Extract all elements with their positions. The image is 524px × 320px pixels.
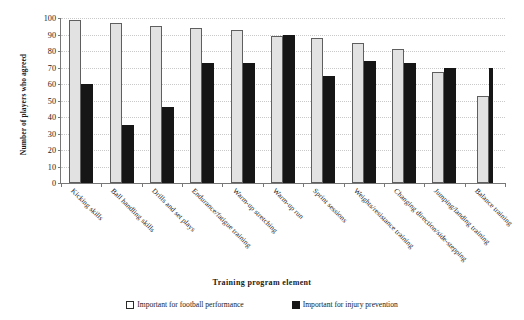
x-axis-labels: Kicking skillsBall handling skillsDrills… <box>60 187 504 272</box>
y-tick-label: 30 <box>48 129 61 138</box>
bar-performance[interactable] <box>190 28 202 183</box>
bar-groups <box>61 18 505 183</box>
bar-group <box>182 18 222 183</box>
bar-injury-prevention[interactable] <box>444 68 456 184</box>
bar-injury-prevention[interactable] <box>122 125 134 183</box>
bar-performance[interactable] <box>231 30 243 183</box>
bar-group <box>101 18 141 183</box>
bar-group <box>465 18 505 183</box>
bar-injury-prevention[interactable] <box>323 76 335 183</box>
bar-injury-prevention[interactable] <box>283 35 295 184</box>
x-tick-label: Changing direction/side-stepping <box>392 186 469 263</box>
x-axis-title: Training program element <box>0 278 524 287</box>
bar-injury-prevention[interactable] <box>162 107 174 183</box>
bar-group <box>142 18 182 183</box>
y-tick-label: 80 <box>48 47 61 56</box>
bar-performance[interactable] <box>271 36 283 183</box>
y-tick-label: 50 <box>48 96 61 105</box>
bar-injury-prevention[interactable] <box>404 63 416 183</box>
filled-square-icon <box>292 301 300 309</box>
y-tick-label: 10 <box>48 162 61 171</box>
bar-group <box>424 18 464 183</box>
y-tick-label: 40 <box>48 113 61 122</box>
bar-group <box>344 18 384 183</box>
bar-group <box>263 18 303 183</box>
legend-item[interactable]: Important for football performance <box>126 300 243 309</box>
x-tick-label: Warm-up run <box>271 186 306 221</box>
y-axis-title: Number of players who agreed <box>19 20 28 190</box>
y-tick-label: 70 <box>48 63 61 72</box>
x-tick-label: Sprint sessions <box>311 186 349 224</box>
bar-injury-prevention[interactable] <box>489 68 493 184</box>
bar-group <box>384 18 424 183</box>
bar-group <box>303 18 343 183</box>
bar-performance[interactable] <box>110 23 122 183</box>
legend-item[interactable]: Important for injury prevention <box>292 300 398 309</box>
y-tick-label: 60 <box>48 80 61 89</box>
y-tick-label: 90 <box>48 30 61 39</box>
bar-injury-prevention[interactable] <box>364 61 376 183</box>
x-tick-label: Kicking skills <box>69 186 105 222</box>
bar-chart-figure: Number of players who agreed 10090807060… <box>0 0 524 320</box>
bar-performance[interactable] <box>477 96 489 183</box>
bar-performance[interactable] <box>150 26 162 183</box>
bar-performance[interactable] <box>432 72 444 183</box>
legend-label: Important for injury prevention <box>303 300 398 309</box>
chart-legend: Important for football performanceImport… <box>0 300 524 309</box>
bar-performance[interactable] <box>392 49 404 183</box>
open-square-icon <box>126 301 134 309</box>
bar-injury-prevention[interactable] <box>202 63 214 183</box>
legend-label: Important for football performance <box>137 300 243 309</box>
x-tick-mark <box>505 183 506 187</box>
bar-performance[interactable] <box>311 38 323 183</box>
bar-injury-prevention[interactable] <box>81 84 93 183</box>
bar-group <box>61 18 101 183</box>
bar-performance[interactable] <box>69 20 81 183</box>
bar-injury-prevention[interactable] <box>243 63 255 183</box>
x-tick-label: Balance training <box>473 186 514 227</box>
y-tick-label: 20 <box>48 146 61 155</box>
bar-performance[interactable] <box>352 43 364 183</box>
plot-area: 1009080706050403020100 <box>60 18 505 184</box>
y-tick-label: 100 <box>44 14 61 23</box>
bar-group <box>222 18 262 183</box>
